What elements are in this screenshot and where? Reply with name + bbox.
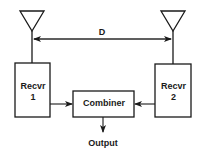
antenna-1-icon bbox=[20, 11, 44, 63]
diagram-canvas bbox=[0, 0, 203, 154]
recvr-1-name: Recvr bbox=[15, 81, 51, 92]
antenna-2-icon bbox=[161, 11, 185, 64]
recvr-1-label: Recvr 1 bbox=[15, 81, 51, 103]
recvr-2-name: Recvr bbox=[155, 81, 192, 92]
recvr-2-label: Recvr 2 bbox=[155, 81, 192, 103]
distance-label: D bbox=[96, 27, 108, 38]
combiner-label: Combiner bbox=[73, 98, 135, 109]
output-label: Output bbox=[83, 138, 123, 149]
recvr-2-number: 2 bbox=[155, 92, 192, 103]
recvr-1-number: 1 bbox=[15, 92, 51, 103]
